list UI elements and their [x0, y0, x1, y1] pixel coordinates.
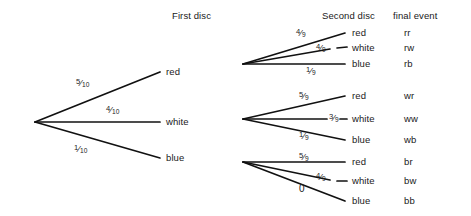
- prob-g3-red: 5⁄9: [299, 152, 309, 163]
- prob-first-red-denominator: 10: [82, 81, 89, 88]
- final-event-wr: wr: [404, 90, 414, 101]
- prob-g1-white-denominator: 9: [322, 46, 326, 53]
- prob-g1-red-denominator: 9: [302, 31, 306, 38]
- final-event-bw: bw: [404, 175, 417, 186]
- node-g2-blue: blue: [352, 134, 370, 145]
- node-g3-white: white: [352, 175, 375, 186]
- prob-g3-blue: 0: [299, 184, 305, 194]
- prob-g1-blue: 1⁄9: [306, 66, 316, 77]
- prob-g2-white-denominator: 9: [335, 116, 339, 123]
- node-first-white: white: [166, 116, 189, 127]
- branch-g1-dash-white: [337, 47, 347, 48]
- prob-first-white-denominator: 10: [112, 108, 119, 115]
- tree-branches-svg: [0, 0, 471, 216]
- node-g1-blue: blue: [352, 58, 370, 69]
- header-final-event: final event: [393, 10, 437, 21]
- prob-g2-blue: 1⁄9: [299, 131, 309, 142]
- branch-g3-blue: [243, 162, 345, 201]
- prob-g3-white: 4⁄9: [316, 172, 326, 183]
- prob-g1-blue-denominator: 9: [312, 69, 316, 76]
- final-event-rw: rw: [404, 42, 414, 53]
- branch-first-blue: [35, 122, 160, 158]
- node-g2-red: red: [352, 90, 366, 101]
- node-first-red: red: [166, 66, 180, 77]
- prob-g2-blue-denominator: 9: [305, 134, 309, 141]
- node-g3-red: red: [352, 156, 366, 167]
- final-event-br: br: [404, 156, 413, 167]
- node-g1-white: white: [352, 42, 375, 53]
- final-event-ww: ww: [404, 113, 418, 124]
- prob-g2-red: 5⁄9: [299, 91, 309, 102]
- prob-first-blue-denominator: 10: [80, 147, 87, 154]
- prob-g1-red: 4⁄9: [296, 28, 306, 39]
- tree-diagram-canvas: First disc Second disc final event red w…: [0, 0, 471, 216]
- prob-first-white: 4⁄10: [106, 105, 119, 116]
- prob-g2-white: 3⁄9: [329, 113, 339, 124]
- branch-first-red: [35, 72, 160, 122]
- prob-g3-white-denominator: 9: [322, 175, 326, 182]
- header-first-disc: First disc: [172, 10, 211, 21]
- header-second-disc: Second disc: [322, 10, 375, 21]
- prob-first-red: 5⁄10: [76, 78, 89, 89]
- prob-g3-red-denominator: 9: [305, 155, 309, 162]
- node-g3-blue: blue: [352, 195, 370, 206]
- prob-first-blue: 1⁄10: [74, 144, 87, 155]
- final-event-rr: rr: [404, 27, 411, 38]
- node-g1-red: red: [352, 27, 366, 38]
- node-g2-white: white: [352, 113, 375, 124]
- final-event-bb: bb: [404, 195, 415, 206]
- node-first-blue: blue: [166, 152, 184, 163]
- prob-g1-white: 4⁄9: [316, 43, 326, 54]
- final-event-wb: wb: [404, 134, 417, 145]
- prob-g2-red-denominator: 9: [305, 94, 309, 101]
- final-event-rb: rb: [404, 58, 413, 69]
